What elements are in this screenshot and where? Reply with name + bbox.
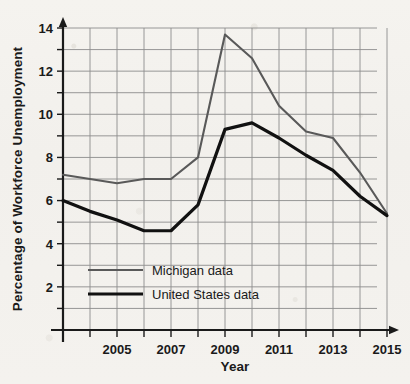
x-axis-arrowhead	[389, 326, 399, 334]
y-tick-label: 4	[46, 237, 54, 252]
legend-label-michigan-data: Michigan data	[152, 263, 234, 278]
unemployment-line-chart: 2468101214200520072009201120132015YearPe…	[0, 0, 410, 384]
y-axis-arrowhead	[59, 17, 67, 27]
x-tick-label: 2011	[265, 342, 293, 357]
y-tick-label: 10	[39, 107, 53, 122]
y-tick-label: 8	[46, 150, 53, 165]
x-tick-label: 2007	[157, 342, 186, 357]
y-tick-label: 2	[46, 280, 53, 295]
y-axis-ticks: 2468101214	[39, 21, 63, 309]
x-axis-title: Year	[221, 359, 251, 374]
x-tick-label: 2009	[211, 342, 240, 357]
axis-titles: YearPercentage of Workforce Unemployment	[10, 46, 250, 374]
x-tick-label: 2015	[373, 342, 402, 357]
y-axis-title: Percentage of Workforce Unemployment	[10, 46, 25, 311]
y-tick-label: 6	[46, 193, 53, 208]
x-axis-ticks: 200520072009201120132015	[90, 330, 401, 357]
y-tick-label: 14	[39, 21, 54, 36]
y-tick-label: 12	[39, 64, 53, 79]
x-tick-label: 2005	[103, 342, 132, 357]
chart-canvas: 2468101214200520072009201120132015YearPe…	[0, 0, 410, 384]
legend: Michigan dataUnited States data	[88, 263, 260, 302]
legend-label-united-states-data: United States data	[152, 287, 260, 302]
x-tick-label: 2013	[319, 342, 348, 357]
gridlines	[63, 28, 387, 330]
